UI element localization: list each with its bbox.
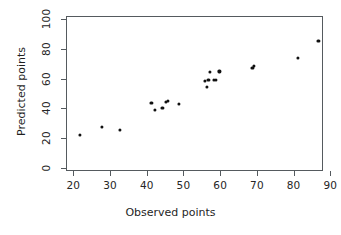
data-point [119,129,122,132]
x-axis-tick [257,171,258,176]
x-axis-tick-label: 80 [279,179,309,191]
x-axis-tick-label: 50 [168,179,198,191]
y-axis-tick [61,49,66,50]
y-axis-tick-label: 20 [40,126,52,150]
x-axis-tick [183,171,184,176]
data-point [165,100,168,103]
y-axis-tick-label: 100 [40,7,52,31]
data-point [212,78,215,81]
data-point [214,78,217,81]
y-axis-tick-label: 80 [40,37,52,61]
x-axis-tick-label: 30 [95,179,125,191]
y-axis-tick [61,108,66,109]
x-axis-tick-label: 90 [315,179,341,191]
plot-panel [66,16,323,171]
data-point [209,71,212,74]
data-point [218,70,221,73]
data-point [297,56,300,59]
y-axis-tick-label: 0 [40,156,52,180]
data-point [317,39,320,42]
y-axis-tick [61,19,66,20]
x-axis-tick [147,171,148,176]
y-axis-tick [61,168,66,169]
x-axis-tick-label: 40 [132,179,162,191]
data-point [205,85,208,88]
x-axis-tick [294,171,295,176]
x-axis-tick [220,171,221,176]
x-axis-tick [330,171,331,176]
y-axis-tick [61,79,66,80]
data-point [78,133,81,136]
y-axis-tick [61,138,66,139]
data-point [177,103,180,106]
y-axis-tick-label: 60 [40,67,52,91]
x-axis-tick [73,171,74,176]
data-point [207,78,210,81]
y-axis-tick-label: 40 [40,96,52,120]
x-axis-tick-label: 60 [205,179,235,191]
data-point [253,65,256,68]
data-point [150,101,153,104]
data-point [203,79,206,82]
data-point [100,126,103,129]
data-point [166,100,169,103]
data-point [251,66,254,69]
x-axis-title: Observed points [0,206,341,219]
scatter-plot-figure: 2030405060708090 020406080100 Observed p… [0,0,341,235]
x-axis-tick-label: 70 [242,179,272,191]
x-axis-tick-label: 20 [58,179,88,191]
data-point [154,109,157,112]
data-points-layer [67,17,322,170]
y-axis-title: Predicted points [15,27,28,157]
data-point [161,106,164,109]
x-axis-tick [110,171,111,176]
